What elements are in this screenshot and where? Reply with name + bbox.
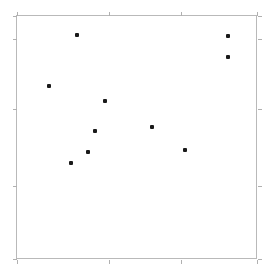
scatter-plot-figure <box>0 0 273 276</box>
x-axis-tick-top <box>17 12 18 16</box>
data-point <box>93 129 97 133</box>
data-point <box>86 150 90 154</box>
data-point <box>47 84 51 88</box>
x-axis-tick <box>17 260 18 264</box>
y-axis-tick <box>13 16 17 17</box>
data-point <box>226 55 230 59</box>
data-point <box>69 161 73 165</box>
y-axis-tick-right <box>258 39 262 40</box>
y-axis-tick <box>13 109 17 110</box>
y-axis-tick-right <box>258 16 262 17</box>
y-axis-tick <box>13 39 17 40</box>
data-point <box>150 125 154 129</box>
y-axis-tick <box>13 186 17 187</box>
y-axis-tick <box>13 259 17 260</box>
y-axis-tick-right <box>258 186 262 187</box>
x-axis-tick-top <box>181 12 182 16</box>
x-axis-tick-top <box>109 12 110 16</box>
data-point <box>75 33 79 37</box>
data-point <box>226 34 230 38</box>
y-axis-tick-right <box>258 259 262 260</box>
plot-area <box>16 15 257 259</box>
data-point <box>183 148 187 152</box>
y-axis-tick-right <box>258 109 262 110</box>
x-axis-tick <box>109 260 110 264</box>
x-axis-tick <box>257 260 258 264</box>
data-point <box>103 99 107 103</box>
x-axis-tick <box>181 260 182 264</box>
